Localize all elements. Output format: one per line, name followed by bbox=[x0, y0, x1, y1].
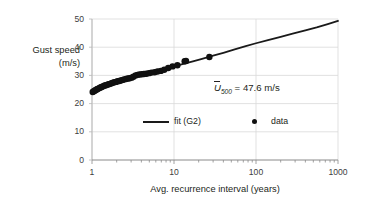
x-tick-label: 1 bbox=[77, 167, 107, 177]
annotation-value: = 47.6 m/s bbox=[232, 82, 280, 93]
y-tick-label: 10 bbox=[60, 126, 84, 136]
y-axis-label-line2: (m/s) bbox=[2, 57, 80, 70]
y-tick-label: 40 bbox=[60, 42, 84, 52]
y-tick-label: 50 bbox=[60, 14, 84, 24]
y-tick-label: 30 bbox=[60, 70, 84, 80]
y-tick-label: 20 bbox=[60, 98, 84, 108]
x-axis-label: Avg. recurrence interval (years) bbox=[92, 184, 338, 194]
x-tick-label: 100 bbox=[241, 167, 271, 177]
annotation-u-symbol: U bbox=[214, 82, 221, 93]
annotation-subscript: 500 bbox=[221, 88, 232, 95]
x-tick-label: 1000 bbox=[323, 167, 353, 177]
x-tick-label: 10 bbox=[159, 167, 189, 177]
y-tick-label: 0 bbox=[60, 155, 84, 165]
annotation-u500: U500 = 47.6 m/s bbox=[214, 82, 280, 95]
chart-plot-area bbox=[0, 0, 365, 209]
gust-speed-chart: Gust speed (m/s) Avg. recurrence interva… bbox=[0, 0, 365, 209]
